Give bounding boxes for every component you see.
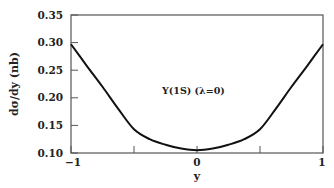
y-tick-label: 0.15 xyxy=(37,119,63,131)
y-tick-label: 0.30 xyxy=(37,36,63,48)
data-series xyxy=(71,44,323,150)
y-axis-label: dσ/dy (nb) xyxy=(8,52,21,116)
cross-section-chart: 0.100.150.200.250.300.35 −101 dσ/dy (nb)… xyxy=(0,0,334,188)
y-tick-label: 0.25 xyxy=(37,64,63,76)
plot-frame xyxy=(71,15,323,153)
x-tick-label: 1 xyxy=(318,156,325,168)
y-tick-label: 0.35 xyxy=(37,9,63,21)
y-axis-ticks: 0.100.150.200.250.300.35 xyxy=(37,9,78,159)
x-axis-label: y xyxy=(193,170,201,183)
series-curve xyxy=(71,44,323,150)
plot-border xyxy=(71,15,323,153)
x-tick-label: −1 xyxy=(65,156,81,168)
curve-annotation: Υ(1S) (λ=0) xyxy=(161,85,225,96)
y-tick-label: 0.20 xyxy=(37,91,63,103)
y-tick-label: 0.10 xyxy=(37,147,63,159)
x-tick-label: 0 xyxy=(193,156,200,168)
